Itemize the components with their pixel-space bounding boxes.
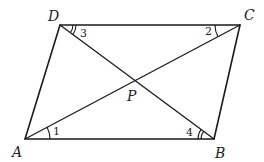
vertex-label-c: C (244, 7, 255, 23)
edge-bc (214, 25, 240, 139)
angle-2-arc (215, 25, 218, 37)
diagram-svg: D C A B P 1 2 3 4 (0, 0, 264, 162)
angle-label-4: 4 (186, 126, 193, 139)
angle-4-arc-inner (201, 131, 204, 139)
diagonal-ac (25, 25, 240, 139)
vertex-label-d: D (47, 8, 59, 24)
angle-1-arc (47, 127, 50, 139)
edge-da (25, 25, 60, 139)
angle-label-2: 2 (205, 25, 212, 38)
vertex-label-a: A (10, 144, 22, 160)
vertex-label-p: P (126, 88, 137, 104)
diagonal-bd (60, 25, 214, 139)
angle-label-3: 3 (80, 27, 87, 40)
vertex-label-b: B (214, 145, 225, 161)
parallelogram-diagram: D C A B P 1 2 3 4 (0, 0, 264, 162)
angle-3-arc-inner (70, 25, 73, 33)
angle-label-1: 1 (53, 125, 60, 138)
